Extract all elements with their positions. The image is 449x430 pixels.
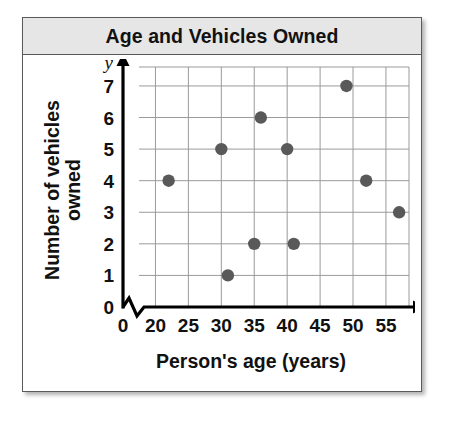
data-point bbox=[255, 111, 267, 123]
y-axis-title: Number of vehicles owned bbox=[25, 65, 101, 315]
y-tick-label: 7 bbox=[103, 76, 114, 97]
vertical-gridlines bbox=[155, 67, 409, 307]
data-point bbox=[393, 206, 405, 218]
data-point bbox=[248, 238, 260, 250]
y-axis-arrowhead bbox=[117, 59, 130, 66]
data-point bbox=[360, 174, 372, 186]
chart-body: Number of vehicles owned Person's age (y… bbox=[23, 55, 423, 392]
y-axis-symbol: y bbox=[103, 59, 114, 73]
x-tick-labels: 02025303540455055 bbox=[118, 315, 397, 336]
x-axis-arrowhead bbox=[413, 301, 415, 314]
x-axis-line-with-break bbox=[123, 298, 415, 316]
y-tick-label: 1 bbox=[103, 265, 114, 286]
y-axis-title-line-2: owned bbox=[63, 100, 84, 280]
y-axis-title-text: Number of vehicles owned bbox=[42, 100, 83, 280]
chart-card: Age and Vehicles Owned Number of vehicle… bbox=[22, 17, 422, 392]
x-tick-label: 35 bbox=[244, 315, 266, 336]
chart-title-banner: Age and Vehicles Owned bbox=[23, 18, 421, 55]
horizontal-gridlines bbox=[139, 67, 409, 275]
y-tick-label: 6 bbox=[103, 108, 114, 129]
scatter-plot: 01234567 02025303540455055 yx bbox=[97, 59, 415, 349]
axes bbox=[117, 59, 416, 316]
y-tick-labels: 01234567 bbox=[103, 76, 114, 318]
data-point bbox=[340, 80, 352, 92]
data-point bbox=[222, 269, 234, 281]
x-tick-label: 45 bbox=[310, 315, 332, 336]
x-axis-title: Person's age (years) bbox=[101, 350, 401, 373]
y-tick-label: 3 bbox=[103, 202, 114, 223]
x-tick-label: 40 bbox=[277, 315, 298, 336]
y-tick-label: 0 bbox=[103, 297, 114, 318]
page-title: Age and Vehicles Owned bbox=[105, 25, 338, 48]
y-tick-label: 4 bbox=[103, 171, 114, 192]
x-tick-label: 20 bbox=[145, 315, 166, 336]
x-tick-label: 55 bbox=[375, 315, 397, 336]
axis-variable-symbols: yx bbox=[103, 59, 415, 336]
x-tick-label: 30 bbox=[211, 315, 232, 336]
y-tick-label: 5 bbox=[103, 139, 114, 160]
y-tick-label: 2 bbox=[103, 234, 114, 255]
data-point bbox=[281, 143, 293, 155]
x-tick-label-origin: 0 bbox=[118, 315, 129, 336]
x-tick-label: 50 bbox=[342, 315, 363, 336]
data-point bbox=[162, 174, 174, 186]
x-tick-label: 25 bbox=[178, 315, 200, 336]
y-axis-title-line-1: Number of vehicles bbox=[41, 100, 63, 280]
data-point bbox=[215, 143, 227, 155]
data-point bbox=[288, 238, 300, 250]
